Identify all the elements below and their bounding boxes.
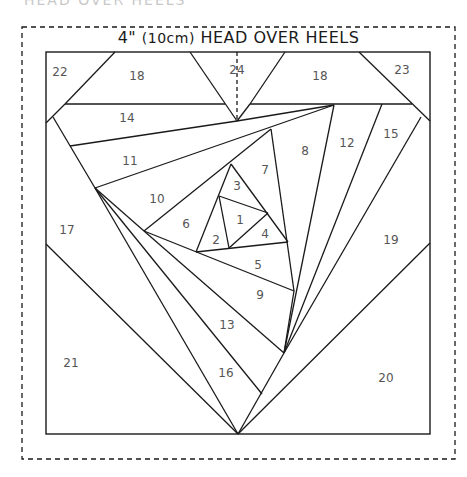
piece-label-2: 2 [212,233,220,247]
inner-block-border [46,52,430,434]
piece-label-4: 4 [261,227,269,241]
seam-line [95,188,144,231]
piece-label-20: 20 [378,371,393,385]
piece-label-9: 9 [256,288,264,302]
paper-piecing-diagram: 22 18 24 18 23 14 11 8 12 15 7 10 3 6 1 … [0,0,467,477]
seam-line [271,129,294,291]
seam-line [196,242,288,252]
piece-label-18a: 18 [129,69,144,83]
seam-line [144,129,271,231]
piece-label-16: 16 [218,366,233,380]
seam-line [284,104,382,353]
seam-line [95,188,238,434]
seam-line [237,105,334,121]
piece-label-18b: 18 [312,69,327,83]
piece-label-6: 6 [182,217,190,231]
seam-line [219,196,229,248]
seam-line [250,52,285,104]
seam-lines [46,52,430,434]
seam-line [284,105,334,353]
piece-label-24: 24 [229,63,244,77]
piece-label-17: 17 [59,223,74,237]
piece-label-21: 21 [63,356,78,370]
piece-label-8: 8 [301,144,309,158]
piece-label-7: 7 [261,163,269,177]
piece-label-11: 11 [122,154,137,168]
piece-label-23: 23 [394,63,409,77]
piece-label-3: 3 [233,179,241,193]
piece-label-22: 22 [52,65,67,79]
seam-line [65,52,115,104]
piece-label-14: 14 [119,111,134,125]
piece-label-19: 19 [383,233,398,247]
seam-line [238,353,284,434]
piece-label-1: 1 [236,213,244,227]
piece-label-5: 5 [254,258,262,272]
piece-label-10: 10 [149,192,164,206]
seam-line [46,244,238,434]
piece-label-15: 15 [383,127,398,141]
seam-line [53,117,95,188]
piece-label-12: 12 [339,136,354,150]
seam-line [237,104,250,121]
piece-label-13: 13 [219,318,234,332]
seam-line [70,121,237,146]
